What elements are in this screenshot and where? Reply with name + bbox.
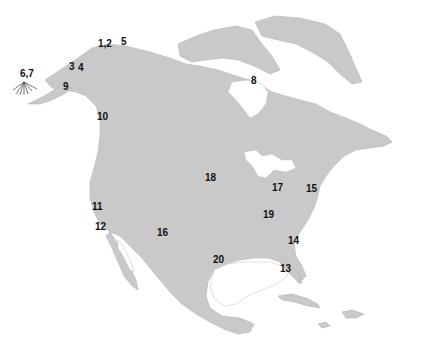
site-label-16: 16 bbox=[157, 227, 169, 238]
gulf-of-mexico bbox=[210, 262, 288, 306]
site-label-11: 11 bbox=[92, 201, 103, 212]
site-label-20: 20 bbox=[213, 254, 225, 265]
site-label-13: 13 bbox=[280, 263, 292, 274]
north-america-map: 1,2 3 4 5 6,7 8 9 10 11 12 13 14 15 16 1… bbox=[0, 0, 421, 359]
site-label-17: 17 bbox=[272, 182, 284, 193]
site-label-6-7: 6,7 bbox=[20, 68, 34, 79]
jamaica bbox=[318, 322, 330, 328]
site-label-19: 19 bbox=[263, 209, 275, 220]
site-label-9: 9 bbox=[63, 81, 69, 92]
site-label-8: 8 bbox=[251, 75, 257, 86]
site-label-10: 10 bbox=[97, 111, 109, 122]
site-label-12: 12 bbox=[95, 221, 107, 232]
site-label-5: 5 bbox=[121, 36, 127, 47]
site-label-14: 14 bbox=[288, 235, 300, 246]
cuba bbox=[278, 294, 320, 308]
site-label-4: 4 bbox=[78, 62, 84, 73]
hispaniola bbox=[342, 310, 364, 318]
site-label-18: 18 bbox=[205, 172, 217, 183]
site-label-15: 15 bbox=[306, 183, 318, 194]
aleutian-rays bbox=[13, 82, 37, 95]
site-label-1-2: 1,2 bbox=[98, 38, 112, 49]
site-label-3: 3 bbox=[69, 61, 75, 72]
